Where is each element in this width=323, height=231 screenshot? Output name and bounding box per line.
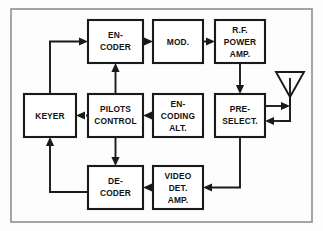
connection-rf-power-amp-to-preselect [236,63,244,94]
keyer-block[interactable]: KEYER [24,94,76,137]
video-det-amp-block[interactable]: VIDEO DET. AMP. [153,166,203,209]
encoding-alt-label-line1: EN- [171,99,186,109]
encoding-alt-label-line2: CODING [161,111,195,121]
arrow-head-right [206,37,215,45]
modulator-block[interactable]: MOD. [153,20,203,63]
video-det-amp-label-line1: VIDEO [165,171,192,181]
connection-pilots-to-decoder [111,137,119,166]
arrow-head-left [265,117,274,125]
connection-video-det-to-decoder [143,183,153,191]
connection-decoder-to-keyer [46,137,88,192]
diagram-canvas: EN- CODER MOD. R.F. POWER AMP. KEYER PIL… [0,0,323,231]
encoder-label-line1: EN- [108,30,123,40]
rf-power-amp-label-line2: POWER [224,37,256,47]
pilots-control-label-line1: PILOTS [100,104,131,114]
connection-preselect-to-antenna [265,97,290,110]
arrow-head-right [144,37,153,45]
decoder-label-line1: DE- [108,176,123,186]
keyer-label: KEYER [35,111,65,121]
preselector-label-line1: PRE- [230,104,251,114]
encoder-label-line2: CODER [100,42,131,52]
preselector-label-line2: SELECT. [222,116,258,126]
connection-modulator-to-rf-power-amp [203,37,215,45]
rf-power-amp-block[interactable]: R.F. POWER AMP. [215,20,265,63]
rf-power-amp-label-line1: R.F. [232,25,248,35]
arrow-head-down [236,85,244,94]
antenna-symbol [276,72,304,97]
pilots-control-block[interactable]: PILOTS CONTROL [88,94,143,137]
arrow-head-up [46,137,54,146]
block-diagram: EN- CODER MOD. R.F. POWER AMP. KEYER PIL… [0,0,323,231]
rf-power-amp-label-line3: AMP. [230,49,250,59]
connection-encoder-to-modulator [143,37,153,45]
arrow-head-left [143,111,152,119]
arrow-head-left [203,183,212,191]
pilots-control-label-line2: CONTROL [94,116,136,126]
connection-preselect-to-video-det [203,137,240,192]
encoder-block[interactable]: EN- CODER [88,20,143,63]
modulator-label: MOD. [167,37,189,47]
arrow-head-right [79,37,88,45]
video-det-amp-label-line3: AMP. [168,195,188,205]
arrow-head-right [281,102,290,110]
decoder-label-line2: CODER [100,188,131,198]
arrow-head-left [143,183,152,191]
connection-antenna-to-preselect [265,97,290,125]
decoder-block[interactable]: DE- CODER [88,166,143,209]
connection-pilots-to-keyer [76,111,88,119]
encoding-alt-block[interactable]: EN- CODING ALT. [153,94,203,137]
arrow-head-down [111,157,119,166]
encoding-alt-label-line3: ALT. [169,123,187,133]
arrow-head-left [76,111,85,119]
connection-keyer-to-encoder [50,37,88,94]
arrow-head-up [111,63,119,72]
video-det-amp-label-line2: DET. [169,183,188,193]
connection-encoding-alt-to-pilots [143,111,153,119]
preselector-block[interactable]: PRE- SELECT. [215,94,265,137]
connection-pilots-to-encoder [111,63,119,94]
